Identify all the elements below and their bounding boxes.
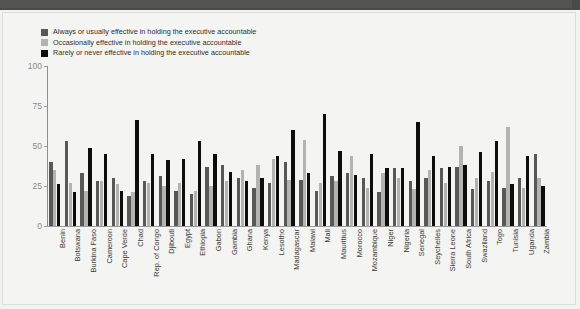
bar[interactable]	[334, 181, 337, 226]
bar[interactable]	[80, 173, 83, 226]
bar[interactable]	[291, 130, 294, 226]
bar[interactable]	[299, 180, 302, 226]
bar[interactable]	[120, 191, 123, 226]
bar[interactable]	[432, 156, 435, 226]
bar[interactable]	[159, 176, 162, 226]
bar[interactable]	[272, 159, 275, 226]
bar[interactable]	[307, 173, 310, 226]
bar[interactable]	[268, 183, 271, 226]
bar[interactable]	[135, 120, 138, 226]
bar[interactable]	[65, 141, 68, 226]
bar[interactable]	[84, 191, 87, 226]
bar[interactable]	[213, 154, 216, 226]
bar[interactable]	[338, 151, 341, 226]
bar[interactable]	[475, 178, 478, 226]
bar[interactable]	[428, 170, 431, 226]
bar[interactable]	[330, 176, 333, 226]
bar[interactable]	[96, 181, 99, 226]
bar[interactable]	[182, 159, 185, 226]
bar[interactable]	[53, 170, 56, 226]
bar[interactable]	[303, 140, 306, 226]
bar[interactable]	[409, 181, 412, 226]
bar[interactable]	[162, 186, 165, 226]
bar[interactable]	[88, 148, 91, 226]
bar[interactable]	[276, 156, 279, 226]
bar[interactable]	[471, 189, 474, 226]
bar[interactable]	[225, 181, 228, 226]
bar[interactable]	[350, 156, 353, 226]
bar[interactable]	[116, 184, 119, 226]
bar[interactable]	[385, 168, 388, 226]
bar[interactable]	[491, 172, 494, 226]
bar[interactable]	[424, 178, 427, 226]
bar[interactable]	[510, 184, 513, 226]
bar[interactable]	[463, 165, 466, 226]
bar[interactable]	[323, 114, 326, 226]
bar[interactable]	[174, 191, 177, 226]
bar[interactable]	[69, 183, 72, 226]
bar[interactable]	[127, 196, 130, 226]
bar[interactable]	[381, 173, 384, 226]
bar[interactable]	[190, 194, 193, 226]
bar[interactable]	[241, 170, 244, 226]
bar[interactable]	[416, 122, 419, 226]
top-header-bar	[0, 0, 580, 10]
bar[interactable]	[455, 167, 458, 226]
bar[interactable]	[49, 162, 52, 226]
bar[interactable]	[541, 186, 544, 226]
bar[interactable]	[205, 167, 208, 226]
bar[interactable]	[370, 154, 373, 226]
bar[interactable]	[256, 165, 259, 226]
legend-entry[interactable]: Occasionally effective in holding the ex…	[41, 38, 256, 49]
bar[interactable]	[245, 181, 248, 226]
bar[interactable]	[147, 183, 150, 226]
bar[interactable]	[401, 168, 404, 226]
bar[interactable]	[526, 156, 529, 226]
bar[interactable]	[522, 188, 525, 226]
bar[interactable]	[131, 192, 134, 226]
legend-entry[interactable]: Always or usually effective in holding t…	[41, 27, 256, 38]
bar[interactable]	[287, 180, 290, 226]
bar[interactable]	[319, 183, 322, 226]
bar[interactable]	[151, 154, 154, 226]
bar[interactable]	[221, 165, 224, 226]
bar[interactable]	[362, 178, 365, 226]
bar[interactable]	[100, 181, 103, 226]
bar[interactable]	[166, 160, 169, 226]
bar[interactable]	[459, 146, 462, 226]
bar[interactable]	[366, 188, 369, 226]
bar[interactable]	[284, 162, 287, 226]
bar[interactable]	[315, 191, 318, 226]
legend-entry[interactable]: Rarely or never effective in holding the…	[41, 48, 256, 59]
bar[interactable]	[397, 178, 400, 226]
bar[interactable]	[412, 189, 415, 226]
bar[interactable]	[143, 181, 146, 226]
bar[interactable]	[237, 178, 240, 226]
bar[interactable]	[57, 184, 60, 226]
bar[interactable]	[229, 172, 232, 226]
bar[interactable]	[194, 191, 197, 226]
bar[interactable]	[440, 168, 443, 226]
bar[interactable]	[112, 178, 115, 226]
bar[interactable]	[534, 154, 537, 226]
bar[interactable]	[487, 181, 490, 226]
bar[interactable]	[479, 152, 482, 226]
bar[interactable]	[377, 192, 380, 226]
bar[interactable]	[73, 192, 76, 226]
bar[interactable]	[537, 178, 540, 226]
bar[interactable]	[448, 167, 451, 226]
bar[interactable]	[209, 186, 212, 226]
bar[interactable]	[260, 178, 263, 226]
bar[interactable]	[506, 127, 509, 226]
bar[interactable]	[346, 173, 349, 226]
bar[interactable]	[178, 183, 181, 226]
bar[interactable]	[198, 141, 201, 226]
bar[interactable]	[502, 188, 505, 226]
bar[interactable]	[444, 183, 447, 226]
bar[interactable]	[495, 141, 498, 226]
bar[interactable]	[518, 178, 521, 226]
bar[interactable]	[104, 154, 107, 226]
bar[interactable]	[393, 168, 396, 226]
bar[interactable]	[252, 188, 255, 226]
bar[interactable]	[354, 175, 357, 226]
